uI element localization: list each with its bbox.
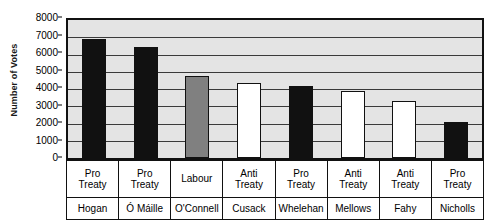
y-axis-tick-mark	[58, 34, 62, 35]
y-axis-tick-label: 3000	[36, 99, 58, 110]
bar-slot	[120, 20, 172, 158]
x-axis-candidate-label: Ó Máille	[119, 198, 170, 220]
x-axis-candidate-label: Nicholls	[432, 198, 483, 220]
bar-slot	[68, 20, 120, 158]
x-axis-candidate-label: O'Connell	[171, 198, 222, 220]
x-axis-label-column: ProTreatyNicholls	[432, 160, 483, 220]
x-axis-party-label-line: Anti	[397, 168, 414, 180]
x-axis-party-label: AntiTreaty	[328, 160, 379, 198]
x-axis-candidate-label-text: Fahy	[394, 203, 416, 214]
y-axis-tick-label: 6000	[36, 47, 58, 58]
y-axis-tick-label: 5000	[36, 64, 58, 75]
x-axis-party-label-line: Treaty	[287, 179, 315, 191]
x-axis-party-label: ProTreaty	[432, 160, 483, 198]
bar-slot	[430, 20, 482, 158]
y-axis-tick-label: 8000	[36, 12, 58, 23]
y-axis-tick-mark	[58, 122, 62, 123]
y-axis-title-label: Number of Votes	[9, 44, 19, 117]
bars-layer	[68, 20, 482, 158]
y-axis-tick-mark	[58, 69, 62, 70]
x-axis-candidate-label-text: Mellows	[335, 203, 371, 214]
x-axis-party-label: Labour	[171, 160, 222, 198]
y-axis-tick-mark	[58, 104, 62, 105]
x-axis-party-label: ProTreaty	[276, 160, 327, 198]
bar[interactable]	[444, 122, 468, 158]
x-axis-candidate-label: Fahy	[380, 198, 431, 220]
x-axis-label-column: ProTreatyÓ Máille	[119, 160, 171, 220]
x-axis-party-label-line: Treaty	[339, 179, 367, 191]
x-axis-label-column: AntiTreatyMellows	[328, 160, 380, 220]
x-axis-candidate-label-text: O'Connell	[175, 203, 219, 214]
y-axis-tick-mark	[58, 17, 62, 18]
x-axis-party-label-line: Treaty	[235, 179, 263, 191]
bar[interactable]	[185, 76, 209, 158]
x-axis-party-label-line: Treaty	[131, 179, 159, 191]
bar-chart: Number of Votes 800070006000500040003000…	[0, 0, 489, 222]
bar-slot	[275, 20, 327, 158]
bar[interactable]	[237, 83, 261, 158]
x-axis-party-label-line: Pro	[137, 168, 153, 180]
x-axis-party-label-line: Treaty	[443, 179, 471, 191]
bar[interactable]	[134, 47, 158, 158]
x-axis-candidate-label: Cusack	[223, 198, 274, 220]
x-axis-party-label-line: Anti	[345, 168, 362, 180]
y-axis-tick-mark	[58, 157, 62, 158]
y-axis-tick-label: 7000	[36, 29, 58, 40]
x-axis-label-table: ProTreatyHoganProTreatyÓ MáilleLabourO'C…	[66, 160, 484, 220]
y-axis-tick-label: 2000	[36, 117, 58, 128]
bar[interactable]	[289, 86, 313, 158]
x-axis-label-column: ProTreatyHogan	[67, 160, 119, 220]
x-axis-party-label-line: Pro	[85, 168, 101, 180]
x-axis-party-label-line: Treaty	[79, 179, 107, 191]
x-axis-candidate-label-text: Nicholls	[440, 203, 475, 214]
plot-area	[66, 18, 484, 160]
x-axis-party-label-line: Treaty	[391, 179, 419, 191]
x-axis-candidate-label-text: Whelehan	[279, 203, 324, 214]
x-axis-label-column: LabourO'Connell	[171, 160, 223, 220]
x-axis-candidate-label-text: Hogan	[78, 203, 107, 214]
y-axis-tick-mark	[58, 87, 62, 88]
x-axis-party-label: ProTreaty	[119, 160, 170, 198]
y-axis-tick-label: 1000	[36, 134, 58, 145]
y-axis-tick-mark	[58, 139, 62, 140]
bar[interactable]	[82, 39, 106, 158]
bar-slot	[172, 20, 224, 158]
x-axis-party-label-line: Labour	[181, 173, 212, 185]
x-axis-party-label: AntiTreaty	[223, 160, 274, 198]
y-axis-title: Number of Votes	[2, 0, 26, 160]
x-axis-label-column: AntiTreatyCusack	[223, 160, 275, 220]
y-axis-tick-labels: 800070006000500040003000200010000	[26, 13, 62, 159]
bar[interactable]	[392, 101, 416, 158]
y-axis-tick-label: 4000	[36, 82, 58, 93]
bar[interactable]	[341, 91, 365, 158]
x-axis-candidate-label-text: Ó Máille	[126, 203, 163, 214]
x-axis-party-label-line: Pro	[450, 168, 466, 180]
x-axis-party-label-line: Pro	[293, 168, 309, 180]
x-axis-candidate-label: Whelehan	[276, 198, 327, 220]
x-axis-candidate-label-text: Cusack	[232, 203, 265, 214]
x-axis-party-label: ProTreaty	[67, 160, 118, 198]
bar-slot	[327, 20, 379, 158]
x-axis-party-label-line: Anti	[240, 168, 257, 180]
bar-slot	[379, 20, 431, 158]
x-axis-label-column: ProTreatyWhelehan	[276, 160, 328, 220]
x-axis-label-column: AntiTreatyFahy	[380, 160, 432, 220]
y-axis-tick-mark	[58, 52, 62, 53]
bar-slot	[223, 20, 275, 158]
x-axis-candidate-label: Mellows	[328, 198, 379, 220]
x-axis-candidate-label: Hogan	[67, 198, 118, 220]
x-axis-party-label: AntiTreaty	[380, 160, 431, 198]
